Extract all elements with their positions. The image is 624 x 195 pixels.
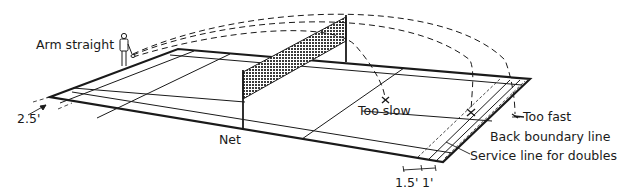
dim-ext-left-1 [33,97,50,102]
label-arm-straight: Arm straight [36,39,114,52]
label-dim-bottom-1: 1.5' [395,177,418,190]
badminton-court-diagram [0,0,624,195]
label-back-boundary-line: Back boundary line [490,131,610,144]
label-dim-bottom-2: 1' [422,177,433,190]
label-net: Net [219,134,241,147]
label-service-line-doubles: Service line for doubles [470,150,617,163]
label-too-slow: Too slow [358,105,411,118]
dim-ext-left-2 [58,103,72,109]
label-too-fast: Too fast [523,111,571,124]
label-dim-left: 2.5' [17,113,40,126]
dim-line-bottom [403,168,435,170]
player-figure [120,33,135,66]
